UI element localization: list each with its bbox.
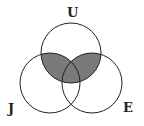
label-u: U [67, 5, 79, 20]
venn-diagram: U J E [0, 0, 144, 126]
label-j: J [7, 101, 14, 116]
label-e: E [123, 100, 133, 115]
